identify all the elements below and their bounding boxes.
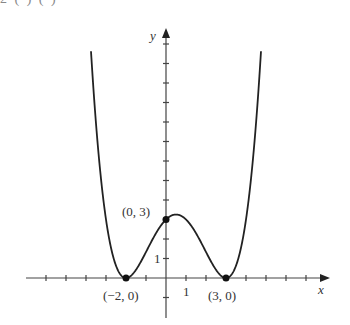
point-label-3-0: (3, 0)	[208, 288, 236, 303]
y-axis-arrow-icon	[162, 28, 170, 38]
point-0-3	[163, 216, 170, 223]
y-axis	[163, 36, 169, 318]
curve	[91, 51, 261, 278]
x-axis-arrow-icon	[320, 274, 330, 282]
y-tick-label-1: 1	[154, 251, 161, 266]
function-graph: y x 1 1 (−2, 0) (0, 3) (3, 0)	[0, 0, 350, 325]
x-axis	[26, 275, 324, 281]
point-label-neg2-0: (−2, 0)	[103, 288, 139, 303]
x-axis-label: x	[317, 282, 324, 297]
point-label-0-3: (0, 3)	[122, 204, 150, 219]
y-axis-label: y	[148, 28, 156, 43]
point-3-0	[223, 275, 230, 282]
x-tick-label-1: 1	[183, 284, 190, 299]
point-neg2-0	[123, 275, 130, 282]
